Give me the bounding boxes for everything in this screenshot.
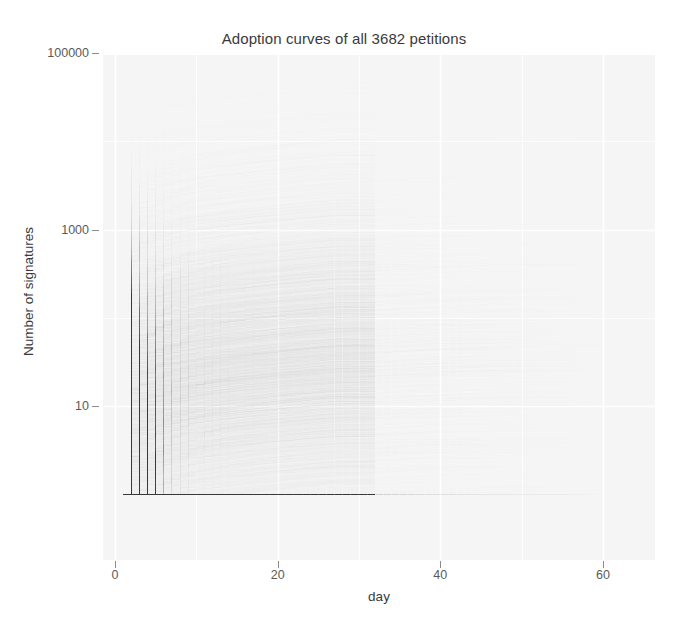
y-axis-tick-labels: 101000100000 — [0, 0, 89, 633]
y-tick-mark — [92, 406, 99, 407]
x-tick-label: 40 — [433, 568, 447, 582]
x-tick-label: 20 — [271, 568, 285, 582]
y-tick-label: 10 — [15, 399, 89, 413]
x-tick-mark — [603, 561, 604, 568]
adoption-curves-canvas — [103, 55, 655, 560]
x-axis-title: day — [103, 589, 655, 604]
x-tick-label: 60 — [596, 568, 610, 582]
x-tick-mark — [115, 561, 116, 568]
plot-panel — [103, 55, 655, 560]
y-tick-label: 100000 — [15, 46, 89, 60]
x-tick-mark — [440, 561, 441, 568]
y-tick-mark — [92, 230, 99, 231]
y-tick-mark — [92, 53, 99, 54]
chart-figure: Adoption curves of all 3682 petitions 10… — [0, 0, 688, 633]
x-tick-mark — [278, 561, 279, 568]
x-tick-label: 0 — [112, 568, 119, 582]
page-title: Adoption curves of all 3682 petitions — [0, 30, 688, 47]
y-axis-title: Number of signatures — [21, 192, 36, 392]
